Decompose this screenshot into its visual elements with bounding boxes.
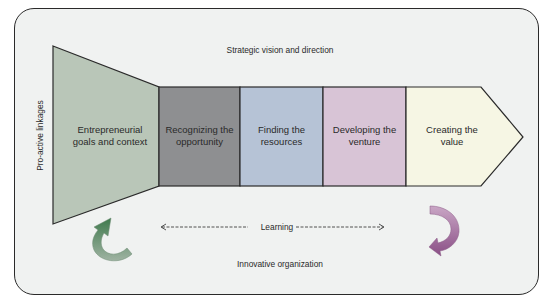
stage-creating: Creating the value xyxy=(412,124,492,148)
stage-entrepreneurial: Entrepreneurial goals and context xyxy=(60,124,160,148)
stage-label-line1: Creating the xyxy=(412,124,492,136)
purple-curved-arrow-icon xyxy=(429,206,459,256)
learning-arrow-left-icon xyxy=(161,224,248,230)
stage-finding: Finding the resources xyxy=(240,124,323,148)
strategic-vision-label: Strategic vision and direction xyxy=(192,44,368,56)
innovative-organization-label: Innovative organization xyxy=(192,258,368,270)
stage-recognizing: Recognizing the opportunity xyxy=(159,124,240,148)
stage-label-line2: value xyxy=(412,136,492,148)
stage-label-line2: resources xyxy=(240,136,323,148)
proactive-linkages-label: Pro-active linkages xyxy=(34,87,45,184)
stage-label-line2: venture xyxy=(323,136,406,148)
stage-label-line1: Finding the xyxy=(240,124,323,136)
learning-arrow-right-icon xyxy=(296,224,384,230)
stage-label-line1: Recognizing the xyxy=(159,124,240,136)
stage-label-line2: goals and context xyxy=(60,136,160,148)
stage-label-line2: opportunity xyxy=(159,136,240,148)
stage-label-line1: Entrepreneurial xyxy=(60,124,160,136)
learning-label: Learning xyxy=(255,221,299,233)
stage-label-line1: Developing the xyxy=(323,124,406,136)
stage-developing: Developing the venture xyxy=(323,124,406,148)
green-curved-arrow-icon xyxy=(93,218,132,261)
